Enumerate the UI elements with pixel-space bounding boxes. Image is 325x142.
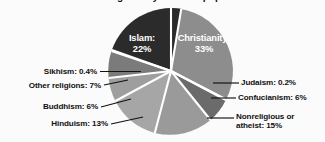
- slice-label-islam-name: Islam:: [129, 32, 155, 43]
- slice-label-nonreligious: Nonreligious or atheist: 15%: [236, 112, 322, 131]
- slice-label-islam-value: 22%: [133, 43, 151, 54]
- slice-label-judaism: Judaism: 0.2%: [241, 78, 296, 87]
- slice-label-hinduism: Hinduism: 13%: [0, 119, 108, 128]
- slice-label-buddhism: Buddhism: 6%: [0, 102, 98, 111]
- slice-label-confucianism: Confucianism: 6%: [238, 93, 307, 102]
- slice-label-nonreligious-line1: Nonreligious: [236, 112, 284, 121]
- slice-label-christianity-name: Christianity:: [178, 32, 231, 43]
- slice-label-other-religions: Other religions: 7%: [0, 81, 101, 90]
- slice-label-sikhism: Sikhism: 0.4%: [0, 67, 97, 76]
- slice-label-christianity: Christianity: 33%: [170, 33, 238, 54]
- slice-label-islam: Islam: 22%: [112, 33, 172, 54]
- slice-label-christianity-value: 33%: [195, 43, 213, 54]
- pie-chart-figure: World religions by share of population: [0, 0, 325, 142]
